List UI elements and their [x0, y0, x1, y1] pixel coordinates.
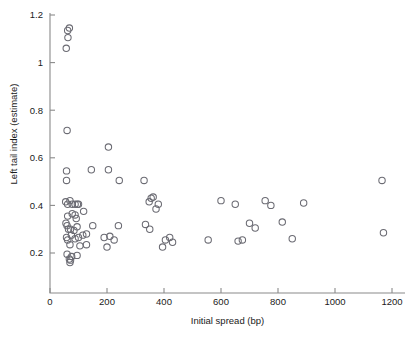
- data-point: [232, 201, 238, 207]
- x-tick-label: 800: [270, 296, 286, 307]
- data-point: [147, 226, 153, 232]
- data-point: [63, 177, 69, 183]
- chart-canvas: 0200400600800100012000.20.40.60.811.2 In…: [0, 0, 414, 345]
- data-point: [218, 197, 224, 203]
- data-point: [262, 197, 268, 203]
- y-axis-title: Left tail index (estimate): [8, 84, 19, 185]
- data-point: [116, 177, 122, 183]
- y-tick-label: 0.4: [30, 200, 43, 211]
- data-point: [83, 231, 89, 237]
- data-point: [88, 167, 94, 173]
- data-points: [62, 25, 386, 266]
- axes: [50, 13, 405, 293]
- data-point: [289, 236, 295, 242]
- x-tick-label: 1200: [381, 296, 402, 307]
- y-tick-label: 1.2: [30, 9, 43, 20]
- x-tick-label: 400: [156, 296, 172, 307]
- data-point: [73, 215, 79, 221]
- y-tick-label: 0.8: [30, 105, 43, 116]
- data-point: [63, 45, 69, 51]
- data-point: [115, 222, 121, 228]
- data-point: [83, 241, 89, 247]
- data-point: [268, 202, 274, 208]
- data-point: [205, 237, 211, 243]
- data-point: [279, 219, 285, 225]
- tick-marks: [50, 15, 392, 293]
- data-point: [159, 244, 165, 250]
- y-tick-label: 0.6: [30, 152, 43, 163]
- data-point: [90, 222, 96, 228]
- data-point: [65, 34, 71, 40]
- data-point: [77, 243, 83, 249]
- data-point: [64, 127, 70, 133]
- x-axis-title: Initial spread (bp): [191, 315, 264, 326]
- data-point: [300, 200, 306, 206]
- axis-spines: [50, 13, 405, 293]
- data-point: [246, 220, 252, 226]
- data-point: [111, 237, 117, 243]
- data-point: [63, 168, 69, 174]
- x-tick-label: 200: [99, 296, 115, 307]
- x-tick-label: 0: [47, 296, 52, 307]
- data-point: [141, 177, 147, 183]
- data-point: [379, 177, 385, 183]
- y-tick-label: 1: [38, 57, 43, 68]
- data-point: [105, 167, 111, 173]
- tick-labels: 0200400600800100012000.20.40.60.811.2: [30, 9, 403, 307]
- data-point: [380, 230, 386, 236]
- data-point: [80, 208, 86, 214]
- data-point: [252, 225, 258, 231]
- data-point: [239, 237, 245, 243]
- data-point: [169, 239, 175, 245]
- data-point: [104, 244, 110, 250]
- data-point: [235, 238, 241, 244]
- x-tick-label: 1000: [324, 296, 345, 307]
- data-point: [105, 144, 111, 150]
- scatter-plot-figure: 0200400600800100012000.20.40.60.811.2 In…: [0, 0, 414, 345]
- y-tick-label: 0.2: [30, 247, 43, 258]
- x-tick-label: 600: [213, 296, 229, 307]
